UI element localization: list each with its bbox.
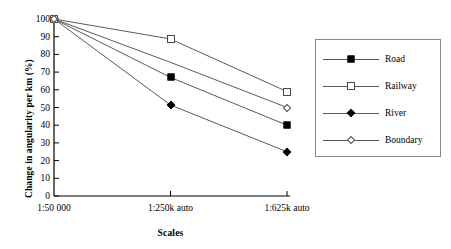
legend-item-river: River — [316, 102, 442, 124]
legend-item-boundary: Boundary — [316, 129, 442, 151]
legend-label: Railway — [385, 81, 417, 91]
legend-swatch — [323, 49, 379, 69]
legend-marker — [347, 136, 355, 144]
legend-marker — [348, 56, 355, 63]
data-point-marker — [167, 74, 174, 81]
legend-label: Boundary — [385, 135, 422, 145]
data-point-marker — [283, 148, 291, 156]
x-tick-label: 1:50 000 — [0, 203, 109, 213]
data-point-marker — [167, 35, 175, 43]
x-tick-label: 1:625k auto — [232, 203, 342, 213]
data-point-marker — [283, 103, 291, 111]
legend-item-railway: Railway — [316, 75, 442, 97]
chart-figure: Change in angularity per km (%) 10090807… — [0, 0, 451, 249]
legend-marker — [347, 82, 355, 90]
data-point-marker — [166, 101, 174, 109]
legend-marker — [347, 109, 355, 117]
legend-swatch — [323, 103, 379, 123]
legend-label: River — [385, 108, 406, 118]
legend-label: Road — [385, 54, 405, 64]
data-point-marker — [284, 122, 291, 129]
legend-swatch — [323, 76, 379, 96]
x-tick-label: 1:250k auto — [116, 203, 226, 213]
legend-item-road: Road — [316, 48, 442, 70]
data-point-marker — [283, 88, 291, 96]
legend-box: RoadRailwayRiverBoundary — [315, 39, 441, 157]
x-axis-title: Scales — [54, 228, 287, 238]
legend-swatch — [323, 130, 379, 150]
